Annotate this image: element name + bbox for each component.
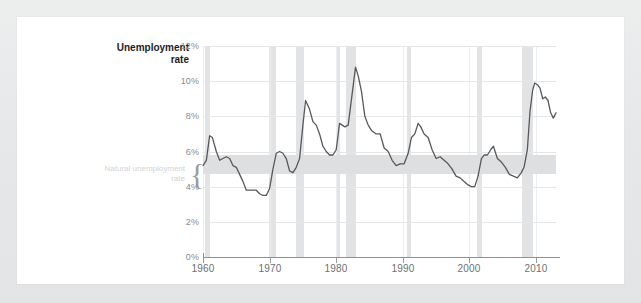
- y-tick-0%: 0%: [159, 253, 199, 262]
- y-axis-tick-labels: 0%2%4%6%8%10%12%: [157, 17, 199, 284]
- y-tick-10%: 10%: [159, 77, 199, 86]
- x-tick-1970: 1970: [240, 263, 300, 274]
- y-tick-8%: 8%: [159, 112, 199, 121]
- x-tick-1980: 1980: [306, 263, 366, 274]
- plot-area: [203, 46, 556, 257]
- x-tick-1960: 1960: [173, 263, 233, 274]
- x-axis-line: [203, 257, 560, 258]
- y-tick-6%: 6%: [159, 148, 199, 157]
- y-tick-2%: 2%: [159, 218, 199, 227]
- x-tick-2010: 2010: [506, 263, 566, 274]
- unemployment-rate-series: [203, 46, 556, 257]
- chart-card: Unemployment rate Natural unemployment r…: [17, 17, 624, 284]
- unemployment-rate-chart: Unemployment rate Natural unemployment r…: [17, 17, 624, 284]
- x-axis-tick-labels: 196019701980199020002010: [203, 263, 556, 279]
- y-tick-4%: 4%: [159, 183, 199, 192]
- x-tick-2000: 2000: [439, 263, 499, 274]
- x-tick-1990: 1990: [373, 263, 433, 274]
- y-tick-12%: 12%: [159, 42, 199, 51]
- series-line-path: [203, 67, 556, 195]
